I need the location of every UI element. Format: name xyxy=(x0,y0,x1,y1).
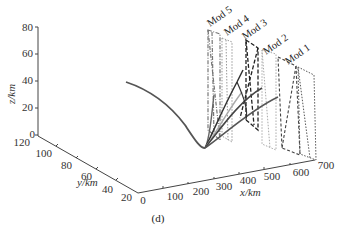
z-tick-80: 80 xyxy=(22,21,34,33)
x-tick-300: 300 xyxy=(216,180,233,192)
z-tick-0: 0 xyxy=(30,128,36,140)
z-axis-title: z/km xyxy=(5,84,17,105)
x-tick-500: 500 xyxy=(264,170,281,182)
figure-caption: (d) xyxy=(152,212,165,225)
y-tick-120: 120 xyxy=(14,136,31,148)
x-tick-700: 700 xyxy=(318,159,335,171)
z-axis: 80 60 40 20 0 z/km xyxy=(5,21,38,140)
mod-2-box xyxy=(262,50,276,150)
x-tick-0: 0 xyxy=(140,194,146,206)
z-tick-60: 60 xyxy=(22,47,34,59)
z-tick-40: 40 xyxy=(22,74,34,86)
x-tick-600: 600 xyxy=(293,166,310,178)
common-trajectory-line xyxy=(126,82,205,148)
mod-2-label: Mod 2 xyxy=(261,32,290,57)
y-tick-80: 80 xyxy=(61,159,73,171)
y-tick-20: 20 xyxy=(121,191,133,203)
trajectory-3d-chart: 80 60 40 20 0 z/km 120 100 80 60 40 20 y… xyxy=(0,0,341,230)
y-tick-40: 40 xyxy=(102,183,114,195)
x-axis-title: x/km xyxy=(239,186,261,198)
z-tick-20: 20 xyxy=(22,101,34,113)
y-axis: 120 100 80 60 40 20 y/km xyxy=(14,136,139,203)
x-tick-100: 100 xyxy=(167,190,184,202)
mod-4-box xyxy=(222,38,232,142)
y-axis-title: y/km xyxy=(76,176,98,188)
mod-1-label: Mod 1 xyxy=(283,42,312,67)
y-tick-100: 100 xyxy=(36,147,53,159)
x-axis: 0 100 200 300 400 500 600 700 x/km xyxy=(138,159,335,206)
mod-1-box xyxy=(298,67,316,160)
mod-1a-box xyxy=(278,57,300,155)
x-tick-200: 200 xyxy=(193,185,210,197)
mod-3-box xyxy=(240,40,258,130)
x-tick-400: 400 xyxy=(240,174,257,186)
mod-5-box xyxy=(208,30,220,140)
